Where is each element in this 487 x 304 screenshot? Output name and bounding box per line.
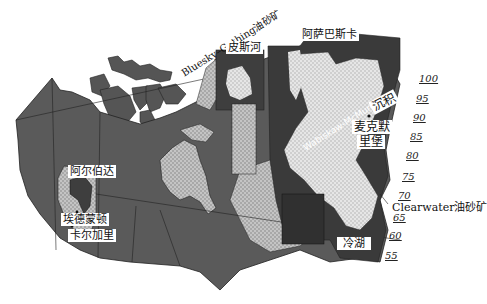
scale-tick-65: 65 — [393, 212, 406, 223]
peace-river-label: 皮斯河 — [226, 41, 263, 54]
scale-tick-100: 100 — [419, 73, 438, 84]
scale-tick-85: 85 — [410, 131, 423, 142]
scale-tick-60: 60 — [389, 230, 402, 241]
fort-mcmurray-label: 麦克默 — [352, 120, 392, 134]
cold-lake-label: 冷湖 — [337, 237, 371, 250]
alberta-label: 阿尔伯达 — [68, 165, 116, 178]
scale-tick-75: 75 — [402, 171, 415, 182]
fort-mcmurray-label-2: 里堡 — [357, 135, 385, 149]
scale-tick-95: 95 — [416, 93, 429, 104]
clearwater-label: Clearwater油砂矿 — [392, 202, 487, 213]
scale-tick-55: 55 — [385, 250, 398, 261]
edmonton-label: 埃德蒙顿 — [61, 213, 109, 226]
scale-tick-90: 90 — [413, 112, 426, 123]
athabasca-label: 阿萨巴斯卡 — [300, 28, 359, 41]
calgary-label: 卡尔加里 — [68, 229, 116, 242]
scale-tick-70: 70 — [398, 190, 411, 201]
scale-tick-80: 80 — [406, 150, 419, 161]
